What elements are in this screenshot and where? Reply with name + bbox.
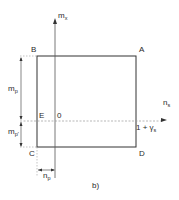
corner-d-label: D <box>139 150 145 158</box>
yield-rectangle <box>37 56 136 147</box>
corner-b-label: B <box>31 46 36 54</box>
corner-c-label: C <box>29 150 35 158</box>
mp-arrow-bottom-icon <box>20 116 23 120</box>
vertical-axis-label: mx <box>58 12 67 22</box>
figure-caption: b) <box>92 182 99 190</box>
right-intercept-label: 1 + γs <box>136 124 156 134</box>
mp-arrow-top-icon <box>20 57 23 61</box>
interaction-diagram: B A C D E 0 mx ns 1 + γs mp mp' np b) <box>0 0 179 200</box>
mp-label: mp <box>8 85 18 95</box>
np-arrow-left-icon <box>38 169 42 172</box>
diagram-graphics <box>0 0 179 200</box>
mp-prime-arrow-bottom-icon <box>20 143 23 147</box>
horizontal-axis-label: ns <box>163 99 170 109</box>
corner-a-label: A <box>139 46 144 54</box>
mp-prime-arrow-top-icon <box>20 122 23 126</box>
np-arrow-right-icon <box>51 169 55 172</box>
origin-label: 0 <box>57 112 61 120</box>
horizontal-axis-arrow-icon <box>161 118 167 122</box>
mp-prime-label: mp' <box>8 128 19 138</box>
vertical-axis-arrow-icon <box>53 18 57 24</box>
point-e-label: E <box>39 112 44 120</box>
np-label: np <box>43 172 51 182</box>
